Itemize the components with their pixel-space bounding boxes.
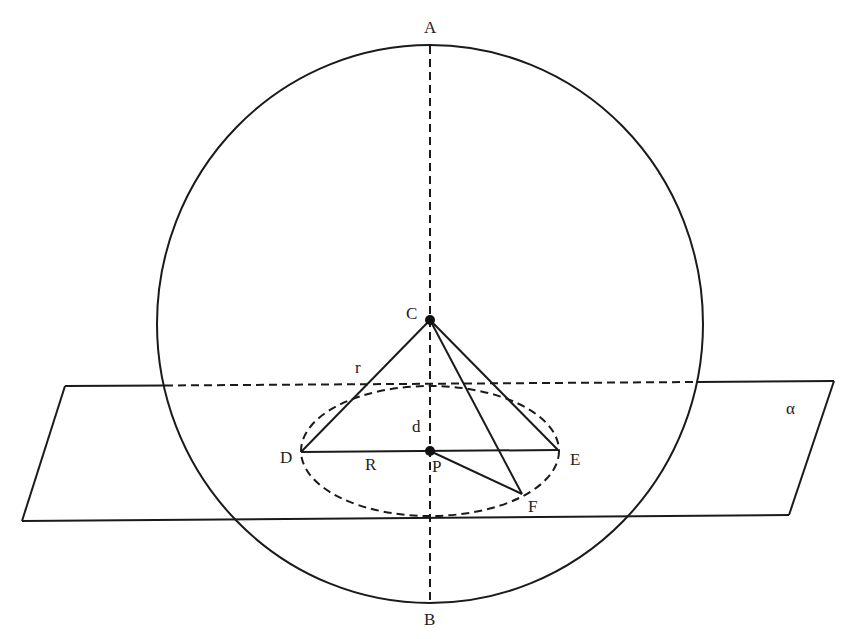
label-F: F <box>528 497 537 516</box>
plane-bottom-edge <box>22 515 789 521</box>
sphere-plane-diagram: A B C D E F P r d R α <box>0 0 856 639</box>
segment-CF <box>430 320 522 494</box>
label-P: P <box>432 457 441 476</box>
plane-top-edge-left <box>65 386 165 387</box>
plane-right-edge <box>789 381 834 515</box>
segment-PF <box>430 451 522 494</box>
label-d: d <box>412 417 421 436</box>
plane-left-edge <box>22 386 65 521</box>
plane-top-edge-right <box>697 381 834 382</box>
label-A: A <box>424 18 437 37</box>
label-C: C <box>406 304 417 323</box>
label-alpha: α <box>786 399 795 418</box>
point-C <box>425 315 435 325</box>
label-B: B <box>424 610 435 629</box>
label-r: r <box>355 358 361 377</box>
label-R: R <box>365 455 377 474</box>
label-E: E <box>570 450 580 469</box>
label-D: D <box>280 448 292 467</box>
point-P <box>425 446 435 456</box>
segment-CE <box>430 320 558 450</box>
